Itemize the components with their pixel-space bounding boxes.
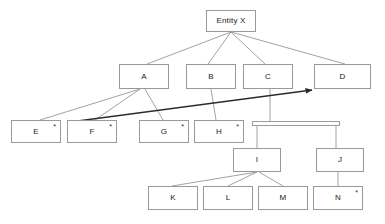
node-f-multiplicity-marker: * [109, 123, 112, 130]
node-m[interactable]: M [258, 186, 308, 210]
node-n[interactable]: N * [313, 186, 363, 210]
node-k-label: K [170, 194, 176, 202]
node-n-multiplicity-marker: * [355, 189, 358, 196]
node-g[interactable]: G * [139, 120, 189, 143]
node-h-multiplicity-marker: * [236, 123, 239, 130]
node-m-label: M [280, 194, 287, 202]
node-n-label: N [335, 194, 341, 202]
node-i-label: I [256, 156, 258, 164]
node-j[interactable]: J [316, 148, 364, 172]
node-j-label: J [338, 156, 342, 164]
node-a[interactable]: A [119, 64, 169, 89]
node-e-label: E [33, 128, 39, 136]
node-k[interactable]: K [148, 186, 198, 210]
edge-a-g [145, 89, 163, 120]
connector-bar-c-children [252, 121, 340, 126]
node-c-label: C [265, 73, 271, 81]
node-b-label: B [208, 73, 214, 81]
node-g-label: G [161, 128, 167, 136]
node-e-multiplicity-marker: * [53, 123, 56, 130]
node-d-label: D [340, 73, 346, 81]
node-entity-x-label: Entity X [216, 17, 245, 25]
edge-i-m [259, 172, 283, 186]
node-l[interactable]: L [203, 186, 253, 210]
node-i[interactable]: I [233, 148, 281, 172]
node-d[interactable]: D [314, 64, 371, 89]
node-b[interactable]: B [186, 64, 236, 89]
node-f-label: F [89, 128, 94, 136]
node-f[interactable]: F * [67, 120, 117, 143]
node-h-label: H [216, 128, 222, 136]
edges-from-entity-x [147, 32, 345, 64]
edges-from-a [40, 89, 163, 120]
edges-from-i [172, 172, 283, 186]
node-l-label: L [226, 194, 231, 202]
node-entity-x[interactable]: Entity X [206, 10, 256, 32]
edge-entityx-a [147, 32, 231, 64]
node-c[interactable]: C [243, 64, 293, 89]
entity-hierarchy-diagram: Entity X A B C D E * F * G * H * I J K L [0, 0, 385, 224]
edge-f-to-d-arrow [70, 90, 312, 122]
edge-b-h [211, 89, 216, 120]
node-h[interactable]: H * [194, 120, 244, 143]
node-g-multiplicity-marker: * [181, 123, 184, 130]
edges-from-connector-bar [257, 126, 336, 148]
edge-i-k [172, 172, 257, 186]
node-e[interactable]: E * [11, 120, 61, 143]
node-a-label: A [141, 73, 147, 81]
